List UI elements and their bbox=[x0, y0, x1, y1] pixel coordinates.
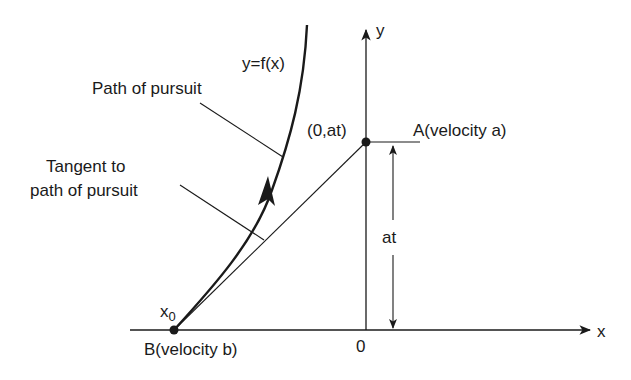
path-of-pursuit-label: Path of pursuit bbox=[92, 79, 202, 98]
point-a-coords-label: (0,at) bbox=[307, 121, 347, 140]
path-leader-line bbox=[200, 103, 283, 157]
point-b-label: B(velocity b) bbox=[144, 340, 238, 359]
origin-label: 0 bbox=[356, 337, 365, 356]
x0-label: x0 bbox=[160, 302, 176, 324]
tangent-leader-line bbox=[180, 185, 264, 240]
tangent-label-line1: Tangent to bbox=[46, 157, 125, 176]
point-b bbox=[170, 326, 179, 335]
curve-equation-label: y=f(x) bbox=[242, 54, 285, 73]
distance-label: at bbox=[382, 228, 396, 247]
pursuit-curve bbox=[174, 25, 307, 330]
tangent-line bbox=[174, 142, 366, 330]
y-axis-label: y bbox=[376, 21, 385, 40]
tangent-label-line2: path of pursuit bbox=[30, 181, 138, 200]
point-a-label: A(velocity a) bbox=[413, 121, 507, 140]
pursuit-diagram: y=f(x) Path of pursuit Tangent to path o… bbox=[0, 0, 631, 380]
x-axis-label: x bbox=[597, 322, 606, 341]
point-a bbox=[362, 138, 371, 147]
